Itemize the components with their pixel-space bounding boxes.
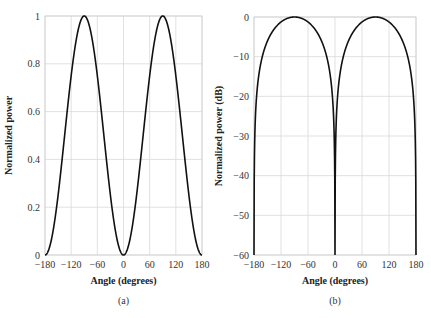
x-tick-label: 120: [168, 259, 183, 270]
x-axis-label: Angle (degrees): [302, 275, 368, 287]
y-tick-label: −50: [233, 210, 249, 221]
x-tick-label: 180: [195, 259, 210, 270]
y-tick-label: 1: [35, 11, 40, 22]
y-tick-label: 0.4: [28, 154, 41, 165]
y-tick-label: 0.6: [28, 106, 41, 117]
x-tick-label: −60: [90, 259, 106, 270]
y-tick-label: −60: [233, 250, 249, 261]
x-axis-label: Angle (degrees): [90, 275, 156, 287]
y-tick-label: −20: [233, 91, 249, 102]
y-tick-label: 0.8: [28, 58, 41, 69]
y-axis-label: Normalized power: [3, 95, 14, 175]
y-tick-label: 0.2: [28, 202, 41, 213]
x-tick-label: −120: [271, 259, 292, 270]
y-tick-label: −40: [233, 170, 249, 181]
x-tick-label: −120: [61, 259, 82, 270]
x-tick-label: 60: [145, 259, 155, 270]
chart-panel-b: −180−120−600601201800−10−20−30−40−50−60A…: [213, 12, 424, 308]
x-tick-label: 60: [357, 259, 367, 270]
x-tick-label: 0: [333, 259, 338, 270]
y-tick-label: 0: [35, 250, 40, 261]
y-tick-label: −30: [233, 131, 249, 142]
x-tick-label: −180: [35, 259, 56, 270]
figure: −180−120−6006012018000.20.40.60.81Angle …: [0, 0, 431, 318]
y-tick-label: 0: [244, 12, 249, 23]
x-tick-label: −60: [300, 259, 316, 270]
panel-caption: (b): [329, 295, 341, 307]
x-tick-label: 120: [382, 259, 397, 270]
x-tick-label: 0: [121, 259, 126, 270]
panel-caption: (a): [118, 295, 129, 307]
chart-panel-a: −180−120−6006012018000.20.40.60.81Angle …: [3, 11, 210, 308]
y-tick-label: −10: [233, 51, 249, 62]
x-tick-label: 180: [409, 259, 424, 270]
x-tick-label: −180: [244, 259, 265, 270]
y-axis-label: Normalized power (dB): [213, 86, 225, 186]
